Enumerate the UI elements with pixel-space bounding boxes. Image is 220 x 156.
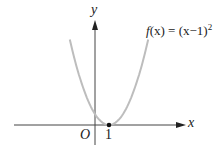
x-tick-label-1: 1 <box>105 127 112 143</box>
function-exponent: 2 <box>208 22 213 32</box>
y-axis-label: y <box>91 2 97 18</box>
y-axis-arrow-icon <box>92 20 98 30</box>
function-arg: (x) <box>150 23 165 38</box>
parabola-curve <box>70 40 148 126</box>
function-body: = (x−1) <box>165 23 208 38</box>
function-graph: y x O 1 f(x) = (x−1)2 <box>0 0 220 156</box>
x-axis-label: x <box>188 115 194 131</box>
function-label: f(x) = (x−1)2 <box>146 22 212 39</box>
origin-label: O <box>80 127 90 143</box>
x-axis-arrow-icon <box>176 122 186 128</box>
